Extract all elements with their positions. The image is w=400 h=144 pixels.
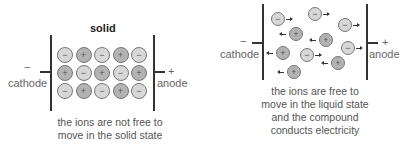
positive-ion: + xyxy=(287,65,301,79)
positive-ion: + xyxy=(113,47,129,63)
cathode-electrode xyxy=(262,4,264,80)
negative-ion: − xyxy=(76,65,92,81)
positive-ion: + xyxy=(57,65,73,81)
negative-ion: − xyxy=(300,48,314,62)
arrow-right-icon xyxy=(286,19,291,20)
positive-ion: + xyxy=(319,33,333,47)
positive-ion: + xyxy=(276,46,290,60)
positive-ion: + xyxy=(76,47,92,63)
caption-line: and the compound xyxy=(245,111,385,124)
caption-line: conducts electricity xyxy=(245,124,385,137)
positive-ion: + xyxy=(331,56,345,70)
liquid-caption: the ions are free to move in the liquid … xyxy=(245,85,385,137)
positive-ion: + xyxy=(289,27,303,41)
cathode-label: cathode xyxy=(220,48,259,60)
negative-ion: − xyxy=(341,41,355,55)
cathode-sign: − xyxy=(24,61,30,73)
negative-ion: − xyxy=(57,83,73,99)
arrow-right-icon xyxy=(315,55,320,56)
solid-title: solid xyxy=(90,22,116,34)
arrow-right-icon xyxy=(353,25,358,26)
positive-ion: + xyxy=(76,83,92,99)
cathode-electrode xyxy=(50,35,52,111)
negative-ion: − xyxy=(131,47,147,63)
negative-ion: − xyxy=(113,65,129,81)
caption-line: move in the solid state xyxy=(40,129,180,142)
solid-caption: the ions are not free to move in the sol… xyxy=(40,116,180,142)
negative-ion: − xyxy=(94,47,110,63)
arrow-left-icon xyxy=(268,53,273,54)
cathode-label: cathode xyxy=(8,77,47,89)
negative-ion: − xyxy=(271,12,285,26)
arrow-left-icon xyxy=(323,63,328,64)
negative-ion: − xyxy=(131,83,147,99)
positive-ion: + xyxy=(94,65,110,81)
cathode-lead xyxy=(252,42,262,44)
caption-line: the ions are not free to xyxy=(40,116,180,129)
cathode-sign: − xyxy=(240,35,246,47)
negative-ion: − xyxy=(308,7,322,21)
anode-lead xyxy=(368,42,378,44)
arrow-left-icon xyxy=(279,72,284,73)
anode-label: anode xyxy=(369,48,400,60)
arrow-right-icon xyxy=(356,48,361,49)
caption-line: move in the liquid state xyxy=(245,98,385,111)
arrow-right-icon xyxy=(323,14,328,15)
arrow-left-icon xyxy=(311,40,316,41)
arrow-left-icon xyxy=(281,34,286,35)
anode-label: anode xyxy=(157,77,188,89)
positive-ion: + xyxy=(131,65,147,81)
anode-sign: + xyxy=(168,65,174,77)
anode-electrode xyxy=(153,35,155,111)
anode-sign: + xyxy=(382,36,388,48)
anode-lead xyxy=(155,71,165,73)
negative-ion: − xyxy=(57,47,73,63)
caption-line: the ions are free to xyxy=(245,85,385,98)
positive-ion: + xyxy=(113,83,129,99)
cathode-lead xyxy=(40,71,50,73)
negative-ion: − xyxy=(94,83,110,99)
negative-ion: − xyxy=(338,18,352,32)
